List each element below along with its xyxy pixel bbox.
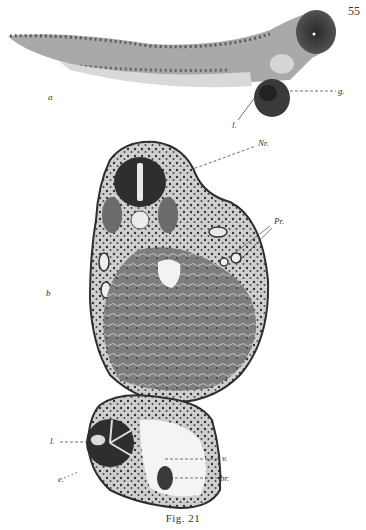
figure-artwork bbox=[0, 0, 366, 530]
section-image bbox=[60, 142, 272, 508]
label-v: v. bbox=[222, 453, 228, 463]
panel-label-b: b bbox=[46, 288, 51, 298]
label-l-lens: l. bbox=[50, 436, 55, 446]
label-e: e. bbox=[58, 474, 64, 484]
label-br: br. bbox=[220, 473, 229, 483]
embryo-image bbox=[8, 10, 336, 120]
label-l-embryo: l. bbox=[232, 120, 237, 130]
figure-caption: Fig. 21 bbox=[0, 512, 366, 524]
label-pr: Pr. bbox=[274, 216, 284, 226]
panel-label-a: a bbox=[48, 92, 53, 102]
label-nr: Nr. bbox=[258, 138, 269, 148]
label-g: g. bbox=[338, 86, 345, 96]
